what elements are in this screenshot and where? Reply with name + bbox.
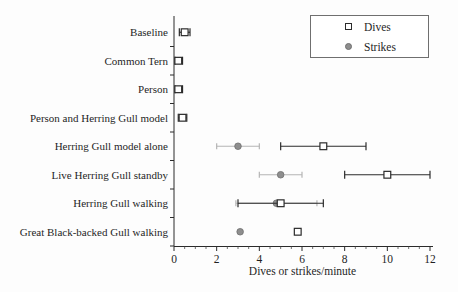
dives-marker	[294, 228, 301, 235]
x-tick-label: 0	[171, 253, 177, 265]
dives-marker	[179, 114, 186, 121]
category-label: Person	[138, 83, 168, 95]
legend-item-dives: Dives	[311, 17, 428, 37]
strikes-marker	[277, 171, 284, 178]
dives-marker	[277, 200, 284, 207]
category-label: Herring Gull model alone	[55, 140, 168, 152]
category-label: Person and Herring Gull model	[30, 112, 168, 124]
legend-label-dives: Dives	[364, 21, 391, 33]
category-label: Live Herring Gull standby	[52, 169, 169, 181]
strikes-marker	[235, 143, 242, 150]
filled-circle-marker-icon	[345, 43, 352, 50]
legend-item-strikes: Strikes	[311, 37, 428, 57]
x-tick-label: 2	[214, 253, 220, 265]
x-tick-label: 8	[342, 253, 348, 265]
dives-marker	[175, 57, 182, 64]
x-tick-label: 4	[256, 253, 262, 265]
legend: Dives Strikes	[310, 15, 429, 58]
category-label: Baseline	[130, 26, 168, 38]
open-square-marker-icon	[345, 23, 352, 30]
category-label: Herring Gull walking	[73, 197, 168, 209]
strikes-marker	[237, 228, 244, 235]
figure: 024681012BaselineCommon TernPersonPerson…	[0, 0, 458, 292]
category-label: Common Tern	[105, 55, 169, 67]
x-tick-label: 10	[382, 253, 394, 265]
x-tick-label: 6	[299, 253, 305, 265]
x-tick-label: 12	[424, 253, 436, 265]
dives-marker	[175, 86, 182, 93]
category-label: Great Black-backed Gull walking	[20, 226, 169, 238]
dives-marker	[320, 143, 327, 150]
dives-marker	[181, 29, 188, 36]
legend-label-strikes: Strikes	[364, 41, 396, 53]
dives-marker	[384, 171, 391, 178]
x-axis-title: Dives or strikes/minute	[174, 265, 431, 277]
